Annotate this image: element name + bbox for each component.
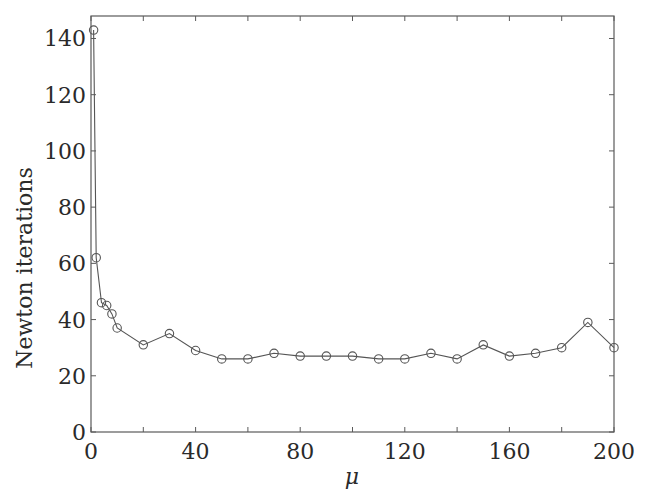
- x-tick-label: 0: [84, 439, 98, 464]
- y-tick-label: 140: [44, 26, 86, 51]
- data-point-marker: [108, 310, 116, 318]
- x-axis-label: μ: [345, 464, 359, 489]
- plot-frame: [91, 16, 614, 432]
- data-point-marker: [139, 341, 147, 349]
- series-line: [94, 30, 614, 359]
- data-point-marker: [531, 349, 539, 357]
- data-point-marker: [453, 355, 461, 363]
- data-point-marker: [270, 349, 278, 357]
- data-point-marker: [296, 352, 304, 360]
- data-point-marker: [610, 343, 618, 351]
- x-tick-label: 80: [286, 439, 314, 464]
- x-tick-label: 160: [488, 439, 530, 464]
- data-point-marker: [505, 352, 513, 360]
- data-series: [89, 26, 618, 363]
- data-point-marker: [584, 318, 592, 326]
- y-tick-label: 60: [58, 251, 86, 276]
- data-point-marker: [113, 324, 121, 332]
- x-axis-ticks: 04080120160200: [84, 16, 635, 464]
- y-tick-label: 80: [58, 195, 86, 220]
- y-tick-label: 120: [44, 83, 86, 108]
- data-point-marker: [401, 355, 409, 363]
- data-point-marker: [165, 329, 173, 337]
- y-tick-label: 40: [58, 308, 86, 333]
- data-point-marker: [191, 346, 199, 354]
- data-point-marker: [218, 355, 226, 363]
- data-point-marker: [102, 301, 110, 309]
- x-tick-label: 120: [384, 439, 426, 464]
- data-point-marker: [479, 341, 487, 349]
- data-point-marker: [92, 254, 100, 262]
- data-point-marker: [322, 352, 330, 360]
- data-point-marker: [374, 355, 382, 363]
- y-tick-label: 0: [72, 420, 86, 445]
- y-tick-label: 20: [58, 364, 86, 389]
- data-point-marker: [558, 343, 566, 351]
- x-tick-label: 40: [182, 439, 210, 464]
- data-point-marker: [427, 349, 435, 357]
- y-axis-label: Newton iterations: [12, 167, 37, 368]
- data-point-marker: [348, 352, 356, 360]
- y-axis-ticks: 020406080100120140: [44, 26, 614, 445]
- y-tick-label: 100: [44, 139, 86, 164]
- x-tick-label: 200: [593, 439, 635, 464]
- line-chart: 04080120160200 020406080100120140 μ Newt…: [0, 0, 649, 498]
- data-point-marker: [89, 26, 97, 34]
- data-point-marker: [244, 355, 252, 363]
